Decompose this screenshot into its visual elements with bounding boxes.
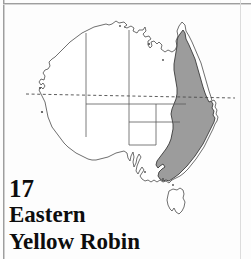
coastal-marker	[148, 43, 150, 45]
coastal-marker	[144, 171, 146, 173]
coastal-marker	[41, 111, 43, 113]
coastal-marker	[162, 178, 164, 180]
species-name-line-2: Yellow Robin	[9, 230, 140, 253]
coastal-marker	[39, 87, 41, 89]
coastal-marker	[172, 184, 174, 186]
coastal-marker	[119, 25, 121, 27]
tasmania-island	[167, 188, 185, 214]
coastal-marker	[162, 59, 164, 61]
figure-number: 17	[9, 176, 34, 201]
figure-panel: 17 Eastern Yellow Robin	[0, 0, 251, 259]
species-name-line-1: Eastern	[9, 203, 86, 226]
